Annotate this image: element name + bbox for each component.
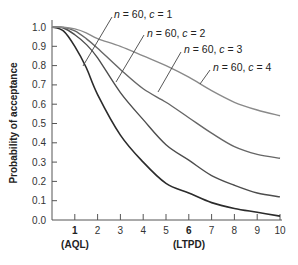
- y-tick-label: 0.1: [32, 195, 46, 206]
- x-tick-label: 10: [274, 225, 286, 236]
- y-tick-label: 1.0: [32, 22, 46, 33]
- y-tick-label: 0.0: [32, 215, 46, 226]
- x-tick-label: 2: [95, 225, 101, 236]
- y-tick-label: 0.6: [32, 99, 46, 110]
- y-axis-title: Probability of acceptance: [8, 62, 19, 184]
- y-tick-label: 0.7: [32, 79, 46, 90]
- series-label-c3: n = 60, c = 3: [184, 43, 243, 55]
- x-tick-label: 8: [232, 225, 238, 236]
- x-tick-label: 7: [209, 225, 215, 236]
- leader-line-c4: [200, 70, 210, 84]
- leader-line-c2: [116, 35, 144, 82]
- x-tick-label: 1: [72, 225, 78, 236]
- oc-curve-c2: [52, 27, 280, 197]
- x-tick-label: 5: [163, 225, 169, 236]
- series-label-c1: n = 60, c = 1: [114, 8, 173, 20]
- aql-annotation: (AQL): [61, 239, 89, 250]
- oc-curve-c1: [52, 27, 280, 216]
- y-tick-label: 0.4: [32, 137, 46, 148]
- ltpd-annotation: (LTPD): [173, 239, 205, 250]
- y-axis-ticks: 0.00.10.20.30.40.50.60.70.80.91.0: [32, 22, 57, 226]
- y-axis: 0.00.10.20.30.40.50.60.70.80.91.0: [32, 20, 57, 226]
- series-label-c4: n = 60, c = 4: [213, 61, 272, 73]
- x-axis: 12345678910: [52, 214, 286, 236]
- oc-curve-chart: 0.00.10.20.30.40.50.60.70.80.91.0 123456…: [0, 0, 298, 265]
- y-tick-label: 0.3: [32, 157, 46, 168]
- y-tick-label: 0.9: [32, 41, 46, 52]
- x-tick-label: 9: [254, 225, 260, 236]
- oc-curves: [52, 27, 280, 216]
- series-label-c2: n = 60, c = 2: [147, 27, 206, 39]
- oc-curve-c3: [52, 27, 280, 158]
- y-tick-label: 0.8: [32, 60, 46, 71]
- x-axis-ticks: 12345678910: [72, 214, 286, 236]
- y-tick-label: 0.5: [32, 118, 46, 129]
- x-tick-label: 4: [140, 225, 146, 236]
- x-tick-label: 6: [186, 225, 192, 236]
- x-tick-label: 3: [118, 225, 124, 236]
- y-tick-label: 0.2: [32, 176, 46, 187]
